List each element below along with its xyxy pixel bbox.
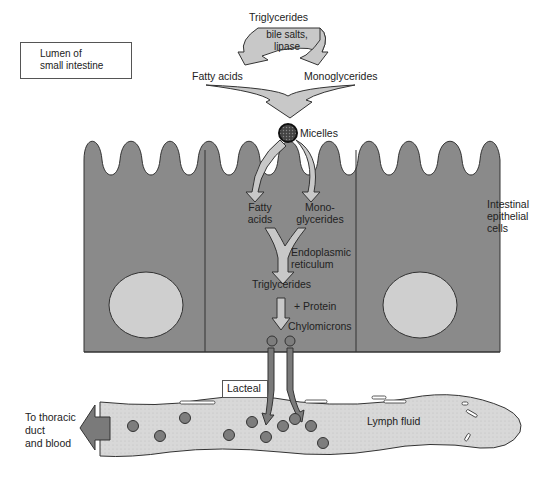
micelles-label: Micelles	[300, 127, 338, 139]
fatty-acids-label: Fatty acids	[192, 70, 243, 82]
lacteal-label: Lacteal	[227, 382, 261, 394]
nucleus-right	[383, 272, 457, 338]
triglycerides-input-label: Triglycerides	[249, 11, 308, 23]
micelle-icon	[279, 124, 297, 142]
monoglycerides-label: Monoglycerides	[304, 70, 378, 82]
plus-protein-label: + Protein	[294, 300, 336, 312]
exit-label: To thoracic duct and blood	[25, 411, 76, 450]
chylomicron-icon	[267, 336, 277, 346]
lumen-label: Lumen of small intestine	[40, 48, 103, 72]
absorbed-monoglycerides-label: Mono- glycerides	[290, 201, 350, 225]
chylomicron-icon	[285, 336, 295, 346]
lymph-fluid-label: Lymph fluid	[367, 415, 420, 427]
epithelial-cells-label: Intestinal epithelial cells	[487, 198, 529, 234]
resynthesized-triglycerides-label: Triglycerides	[252, 278, 311, 290]
er-label: Endoplasmic reticulum	[291, 246, 351, 270]
chylomicrons-label: Chylomicrons	[288, 320, 352, 332]
absorbed-fatty-acids-label: Fatty acids	[238, 201, 282, 225]
enzymes-label: bile salts, lipase	[262, 29, 312, 53]
nucleus-left	[109, 272, 183, 338]
